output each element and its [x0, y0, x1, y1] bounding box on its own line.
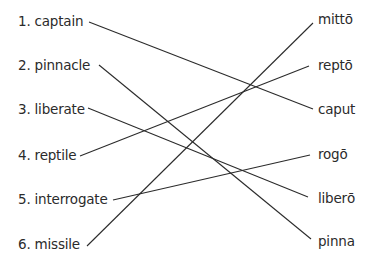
right-item-rogo: rogō [318, 146, 348, 162]
right-item-repto: reptō [318, 57, 353, 73]
right-item-caput: caput [318, 101, 355, 117]
right-item-pinna: pinna [318, 233, 355, 249]
connection-lines [0, 0, 373, 266]
connection-line-5 [113, 155, 310, 200]
left-item-reptile: 4. reptile [18, 147, 76, 163]
right-item-mitto: mittō [318, 11, 353, 27]
left-item-liberate: 3. liberate [18, 101, 85, 117]
connection-line-3 [88, 108, 308, 197]
connection-line-2 [99, 65, 311, 239]
left-item-missile: 6. missile [18, 236, 80, 252]
left-item-pinnacle: 2. pinnacle [18, 57, 90, 73]
left-item-captain: 1. captain [18, 13, 83, 29]
connection-line-1 [89, 22, 313, 109]
left-item-interrogate: 5. interrogate [18, 191, 108, 207]
connection-line-4 [80, 66, 309, 156]
right-item-libero: liberō [318, 190, 355, 206]
